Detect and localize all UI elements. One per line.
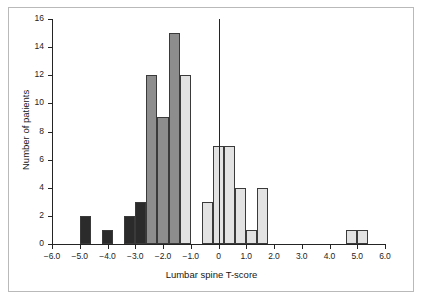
y-tick	[48, 47, 52, 48]
x-tick	[163, 245, 164, 249]
histogram-bar	[202, 202, 213, 244]
histogram-bar	[235, 188, 246, 244]
histogram-bar	[346, 230, 357, 244]
x-tick	[191, 245, 192, 249]
histogram-bar	[135, 202, 146, 244]
histogram-bar	[146, 75, 157, 244]
figure-container: −6.0−5.0−4.0−3.0−2.0−1.001.02.03.04.05.0…	[0, 0, 423, 300]
y-axis-line	[52, 19, 53, 245]
histogram-bar	[180, 75, 191, 244]
y-tick	[48, 216, 52, 217]
histogram-bar	[124, 216, 135, 244]
y-tick	[48, 75, 52, 76]
x-tick	[246, 245, 247, 249]
x-tick-label: 6.0	[365, 251, 405, 261]
histogram-bar	[169, 33, 180, 244]
histogram-bar	[80, 216, 91, 244]
histogram-bar	[157, 117, 168, 244]
x-tick	[219, 245, 220, 249]
y-tick-label: 4	[22, 182, 44, 192]
zero-reference-line	[219, 19, 220, 244]
y-tick-label: 0	[22, 238, 44, 248]
y-tick-label: 16	[22, 13, 44, 23]
histogram-bar	[102, 230, 113, 244]
y-tick	[48, 188, 52, 189]
histogram-bar	[246, 230, 257, 244]
x-tick	[80, 245, 81, 249]
histogram-bar	[357, 230, 368, 244]
x-axis-title: Lumbar spine T-score	[0, 269, 423, 280]
y-tick-label: 14	[22, 41, 44, 51]
histogram-bar	[224, 146, 235, 244]
y-tick	[48, 19, 52, 20]
x-tick	[357, 245, 358, 249]
y-tick	[48, 132, 52, 133]
x-tick	[302, 245, 303, 249]
x-tick	[330, 245, 331, 249]
x-tick	[385, 245, 386, 249]
histogram-bar	[257, 188, 268, 244]
x-tick	[135, 245, 136, 249]
histogram-plot-area: −6.0−5.0−4.0−3.0−2.0−1.001.02.03.04.05.0…	[0, 0, 423, 300]
x-tick	[274, 245, 275, 249]
y-tick	[48, 160, 52, 161]
x-tick	[52, 245, 53, 249]
y-axis-title: Number of patients	[20, 89, 31, 169]
x-tick	[108, 245, 109, 249]
y-tick	[48, 103, 52, 104]
y-tick-label: 2	[22, 210, 44, 220]
y-tick-label: 12	[22, 69, 44, 79]
y-tick	[48, 244, 52, 245]
